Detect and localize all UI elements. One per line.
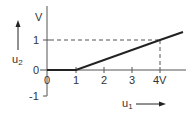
y-tick-label: 0: [33, 64, 39, 76]
y-unit-label: V: [35, 11, 43, 23]
x-tick-label: 3: [129, 74, 135, 86]
data-line: [47, 32, 183, 70]
x-axis-label: u1: [122, 97, 166, 111]
y-tick-label: 1: [33, 34, 39, 46]
x-tick-label: 4V: [153, 74, 167, 86]
x-tick-label: 0: [44, 74, 50, 86]
up-arrow-head-icon: [16, 20, 21, 27]
right-arrow-head-icon: [159, 102, 166, 107]
svg-text:u2: u2: [12, 53, 23, 67]
x-tick-label: 1: [73, 74, 79, 86]
svg-text:u1: u1: [122, 97, 133, 111]
x-tick-label: 2: [101, 74, 107, 86]
y-tick-label: -1: [29, 90, 39, 102]
y-axis-label: u2: [12, 20, 23, 67]
chart: 0 1 2 3 4V 1 0 -1 V u2 u1: [0, 0, 196, 119]
